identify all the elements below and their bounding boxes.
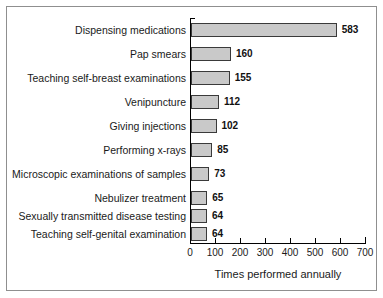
bar	[191, 119, 217, 133]
bar-value-label: 64	[212, 209, 223, 223]
bar-value-label: 85	[217, 143, 228, 157]
bar	[191, 167, 209, 181]
bar-value-label: 160	[236, 47, 253, 61]
bar-value-label: 73	[214, 167, 225, 181]
category-label: Nebulizer treatment	[10, 191, 186, 205]
category-label: Microscopic examinations of samples	[10, 167, 186, 181]
category-label: Sexually transmitted disease testing	[10, 209, 186, 223]
category-label: Teaching self-genital examination	[10, 227, 186, 241]
bar	[191, 23, 337, 37]
bar-value-label: 155	[235, 71, 252, 85]
bar	[191, 95, 219, 109]
x-axis-tick	[340, 238, 341, 244]
bar	[191, 71, 230, 85]
category-label: Pap smears	[10, 47, 186, 61]
category-label: Teaching self-breast examinations	[10, 71, 186, 85]
y-axis-top-cap	[190, 18, 195, 19]
bar-value-label: 102	[222, 119, 239, 133]
bar	[191, 227, 207, 241]
category-label: Dispensing medications	[10, 23, 186, 37]
bar-value-label: 64	[212, 227, 223, 241]
x-axis-tick-label: 700	[345, 247, 383, 259]
x-axis-tick	[315, 238, 316, 244]
bar-value-label: 65	[212, 191, 223, 205]
bar-value-label: 112	[224, 95, 240, 109]
bar-value-label: 583	[342, 23, 359, 37]
category-label: Performing x-rays	[10, 143, 186, 157]
x-axis-tick	[290, 238, 291, 244]
category-label: Giving injections	[10, 119, 186, 133]
bar	[191, 143, 212, 157]
x-axis-title: Times performed annually	[190, 268, 366, 280]
x-axis-tick	[265, 238, 266, 244]
x-axis-tick	[240, 238, 241, 244]
bar	[191, 191, 207, 205]
bar	[191, 47, 231, 61]
bar	[191, 209, 207, 223]
plot-area: 0 100 200 300 400 500 600 700 Times perf…	[0, 0, 383, 298]
chart-figure: 0 100 200 300 400 500 600 700 Times perf…	[0, 0, 383, 298]
category-label: Venipuncture	[10, 95, 186, 109]
x-axis-tick	[365, 238, 366, 244]
